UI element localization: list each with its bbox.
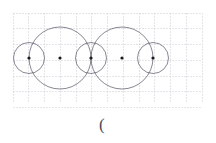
point-e — [151, 56, 154, 59]
figure-page: ( — [0, 0, 216, 143]
point-d — [120, 56, 123, 59]
point-b — [58, 56, 61, 59]
dotted-grid — [13, 13, 202, 108]
point-c — [89, 56, 92, 59]
center-dots-group — [27, 56, 154, 59]
caption-paren: ( — [99, 116, 105, 133]
geometry-figure — [0, 0, 216, 143]
point-a — [27, 56, 30, 59]
